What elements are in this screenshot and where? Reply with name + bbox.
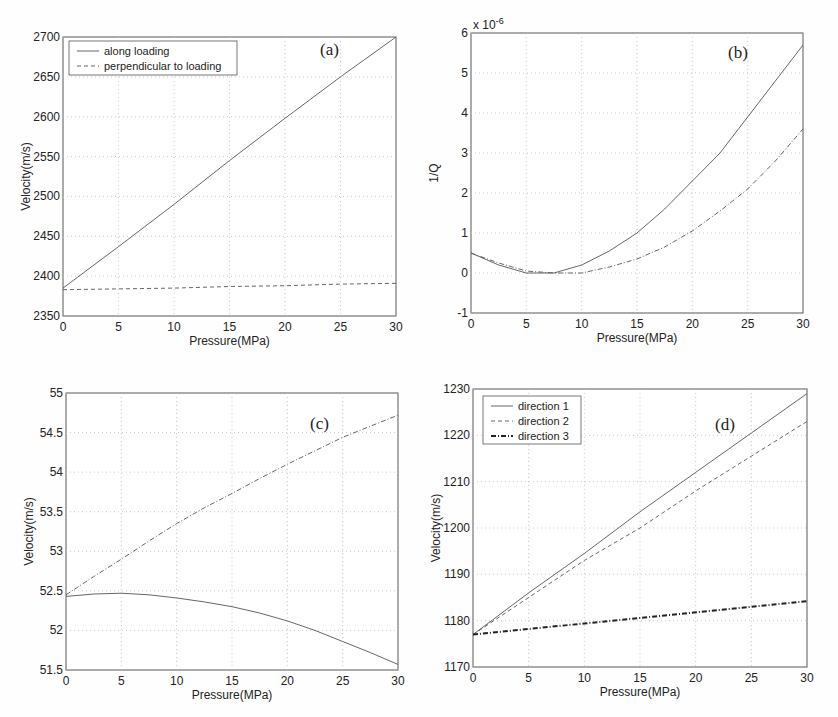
y-tick-label: 1170 (444, 660, 470, 674)
y-tick-label: -1 (457, 306, 468, 320)
x-tick-label: 5 (115, 320, 122, 334)
x-axis-label: Pressure(MPa) (192, 688, 273, 702)
x-tick-label: 30 (391, 674, 405, 688)
legend-entry: perpendicular to loading (104, 60, 221, 72)
y-tick-label: 2450 (33, 229, 60, 243)
y-tick-label: 2550 (33, 150, 60, 164)
y-tick-label: 3 (461, 146, 468, 160)
x-tick-label: 25 (741, 317, 755, 331)
y-tick-label: 2650 (33, 70, 60, 84)
x-axis-label: Pressure(MPa) (597, 331, 678, 345)
legend-entry: direction 3 (518, 430, 569, 442)
x-tick-label: 10 (578, 671, 592, 685)
y-tick-label: 55 (50, 386, 64, 400)
y-tick-label: 1210 (443, 475, 470, 489)
y-tick-label: 1230 (443, 382, 470, 396)
x-tick-label: 20 (281, 674, 295, 688)
x-tick-label: 15 (633, 671, 647, 685)
y-tick-label: 1220 (443, 428, 470, 442)
x-tick-label: 30 (389, 320, 403, 334)
x-tick-label: 15 (223, 320, 237, 334)
y-tick-label: 1 (461, 226, 468, 240)
x-tick-label: 10 (170, 674, 184, 688)
x-tick-label: 30 (796, 317, 810, 331)
chart-panel-d: 0510152025301170118011901200121012201230… (429, 382, 814, 699)
plot-area (63, 37, 396, 316)
y-tick-label: 2400 (33, 269, 60, 283)
y-tick-label: 2500 (33, 189, 60, 203)
x-tick-label: 25 (334, 320, 348, 334)
chart-panel-b: 051015202530-10123456Pressure(MPa)1/Qx 1… (427, 16, 810, 345)
x-tick-label: 5 (523, 317, 530, 331)
y-tick-label: 4 (461, 106, 468, 120)
x-tick-label: 0 (60, 320, 67, 334)
y-tick-label: 54.5 (40, 426, 64, 440)
legend-entry: direction 1 (518, 400, 569, 412)
y-multiplier: x 10-6 (473, 16, 504, 32)
y-tick-label: 54 (50, 465, 64, 479)
y-tick-label: 52 (50, 623, 64, 637)
x-tick-label: 0 (63, 674, 70, 688)
x-tick-label: 5 (525, 671, 532, 685)
y-axis-label: Velocity(m/s) (429, 494, 443, 563)
x-tick-label: 25 (336, 674, 350, 688)
y-axis-label: Velocity(m/s) (19, 142, 33, 211)
legend: along loadingperpendicular to loading (69, 41, 237, 75)
figure: 0510152025302350240024502500255026002650… (0, 0, 838, 717)
y-tick-label: 51.5 (40, 663, 64, 677)
x-tick-label: 20 (689, 671, 703, 685)
x-axis-label: Pressure(MPa) (189, 334, 270, 348)
x-tick-label: 0 (468, 317, 475, 331)
x-tick-label: 10 (167, 320, 181, 334)
y-tick-label: 2700 (33, 30, 60, 44)
y-tick-label: 2600 (33, 110, 60, 124)
x-tick-label: 20 (278, 320, 292, 334)
y-tick-label: 53 (50, 544, 64, 558)
panel-label: (d) (715, 415, 735, 434)
x-tick-label: 25 (745, 671, 759, 685)
y-tick-label: 1180 (444, 614, 470, 628)
y-tick-label: 1200 (443, 521, 470, 535)
plot-area (66, 393, 398, 670)
x-tick-label: 15 (225, 674, 239, 688)
y-tick-label: 52.5 (40, 584, 64, 598)
panel-label: (b) (728, 43, 748, 62)
y-tick-label: 2350 (33, 309, 60, 323)
chart-panel-c: 05101520253051.55252.55353.55454.555Pres… (22, 386, 405, 702)
x-axis-label: Pressure(MPa) (600, 685, 681, 699)
x-tick-label: 5 (118, 674, 125, 688)
y-tick-label: 5 (461, 66, 468, 80)
y-tick-label: 1190 (444, 567, 470, 581)
y-axis-label: 1/Q (427, 163, 441, 182)
y-tick-label: 53.5 (40, 505, 64, 519)
y-tick-label: 6 (461, 26, 468, 40)
y-tick-label: 0 (461, 266, 468, 280)
legend-entry: along loading (104, 45, 169, 57)
x-tick-label: 10 (575, 317, 589, 331)
y-axis-label: Velocity(m/s) (22, 497, 36, 566)
x-tick-label: 15 (630, 317, 644, 331)
panel-label: (c) (310, 414, 329, 433)
y-tick-label: 2 (461, 186, 468, 200)
panel-label: (a) (320, 40, 339, 59)
x-tick-label: 0 (470, 671, 477, 685)
legend-entry: direction 2 (518, 415, 569, 427)
x-tick-label: 30 (800, 671, 814, 685)
chart-panel-a: 0510152025302350240024502500255026002650… (19, 30, 403, 348)
x-tick-label: 20 (686, 317, 700, 331)
legend: direction 1direction 2direction 3 (483, 396, 581, 444)
